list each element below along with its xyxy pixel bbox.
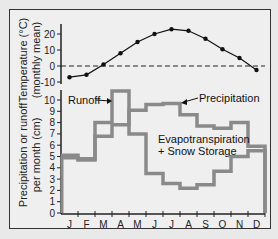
- precip-tick-label: 0: [49, 208, 55, 219]
- precip-tick-label: 3: [49, 174, 55, 185]
- temperature-axis-label: Temperature (°C) (monthly mean): [17, 18, 42, 102]
- precip-tick-label: 5: [49, 151, 55, 162]
- precip-tick-label: 10: [44, 95, 56, 106]
- precip-tick-label: 7: [49, 128, 55, 139]
- month-label: S: [202, 219, 209, 230]
- month-label: F: [83, 219, 89, 230]
- temperature-point: [203, 37, 207, 41]
- temperature-point: [220, 47, 224, 51]
- month-label: M: [99, 219, 107, 230]
- precip-tick-label: 8: [49, 117, 55, 128]
- precip-axis-label-line1: Precipitation or runoff: [17, 102, 29, 207]
- month-label: O: [219, 219, 227, 230]
- temperature-point: [101, 62, 105, 66]
- month-label: A: [117, 219, 124, 230]
- temperature-point: [135, 40, 139, 44]
- month-label: M: [133, 219, 141, 230]
- temperature-line: [70, 29, 257, 77]
- month-label: A: [185, 219, 192, 230]
- temperature-point: [186, 29, 190, 33]
- precip-tick-label: 9: [49, 106, 55, 117]
- temperature-point: [118, 51, 122, 55]
- precip-axis-label-line2: per month (cm): [30, 118, 42, 193]
- temperature-plot: 20100-10: [41, 24, 265, 88]
- temperature-point: [67, 75, 71, 79]
- month-label: J: [152, 219, 157, 230]
- temperature-point: [237, 56, 241, 60]
- temp-tick-label: 20: [44, 29, 56, 40]
- snow-storage-label: + Snow Storage: [158, 145, 237, 157]
- month-label: J: [67, 219, 72, 230]
- chart-svg: Temperature (°C) (monthly mean) Precipit…: [0, 0, 278, 239]
- temp-tick-label: 0: [49, 61, 55, 72]
- month-label: N: [236, 219, 243, 230]
- temp-tick-label: -10: [41, 77, 56, 88]
- precip-tick-label: 1: [49, 196, 55, 207]
- precipitation-arrowhead-icon: [181, 99, 187, 105]
- temperature-point: [84, 73, 88, 77]
- temperature-point: [152, 32, 156, 36]
- precip-tick-label: 4: [49, 162, 55, 173]
- precip-runoff-plot: 012345678910JFMAMJJASOND: [44, 90, 265, 230]
- precip-axis-label: Precipitation or runoff per month (cm): [17, 102, 42, 207]
- temperature-point: [169, 27, 173, 31]
- temp-axis-label-line1: Temperature (°C): [17, 18, 29, 102]
- evapotranspiration-label: Evapotranspiration: [158, 133, 250, 145]
- precip-tick-label: 2: [49, 185, 55, 196]
- month-label: J: [169, 219, 174, 230]
- temperature-point: [254, 68, 258, 72]
- temp-tick-label: 10: [44, 45, 56, 56]
- precipitation-label: Precipitation: [199, 92, 260, 104]
- month-label: D: [253, 219, 260, 230]
- precip-tick-label: 6: [49, 140, 55, 151]
